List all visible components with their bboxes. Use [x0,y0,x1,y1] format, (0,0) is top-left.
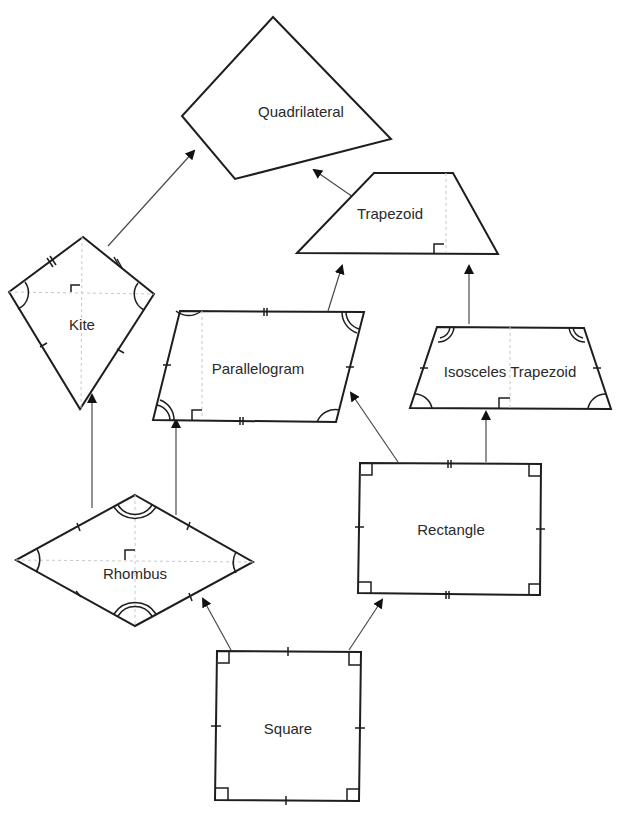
arrow-trapezoid-to-quadrilateral [314,170,353,197]
shape-quadrilateral [182,17,391,179]
arrow-rectangle-to-parallelogram [351,393,398,462]
label-rhombus: Rhombus [103,565,167,582]
arrow-parallelogram-to-trapezoid [328,266,342,311]
label-trapezoid: Trapezoid [357,205,423,222]
quadrilateral-hierarchy-diagram [0,0,624,822]
label-kite: Kite [69,316,95,333]
label-parallelogram: Parallelogram [212,360,305,377]
label-rectangle: Rectangle [417,521,485,538]
arrow-square-to-rhombus [203,599,231,650]
arrow-kite-to-quadrilateral [108,151,194,246]
label-isosceles-trapezoid: Isosceles Trapezoid [444,363,577,380]
shape-rhombus [16,495,253,626]
arrow-square-to-rectangle [349,600,382,650]
label-square: Square [264,720,312,737]
label-quadrilateral: Quadrilateral [258,103,344,120]
